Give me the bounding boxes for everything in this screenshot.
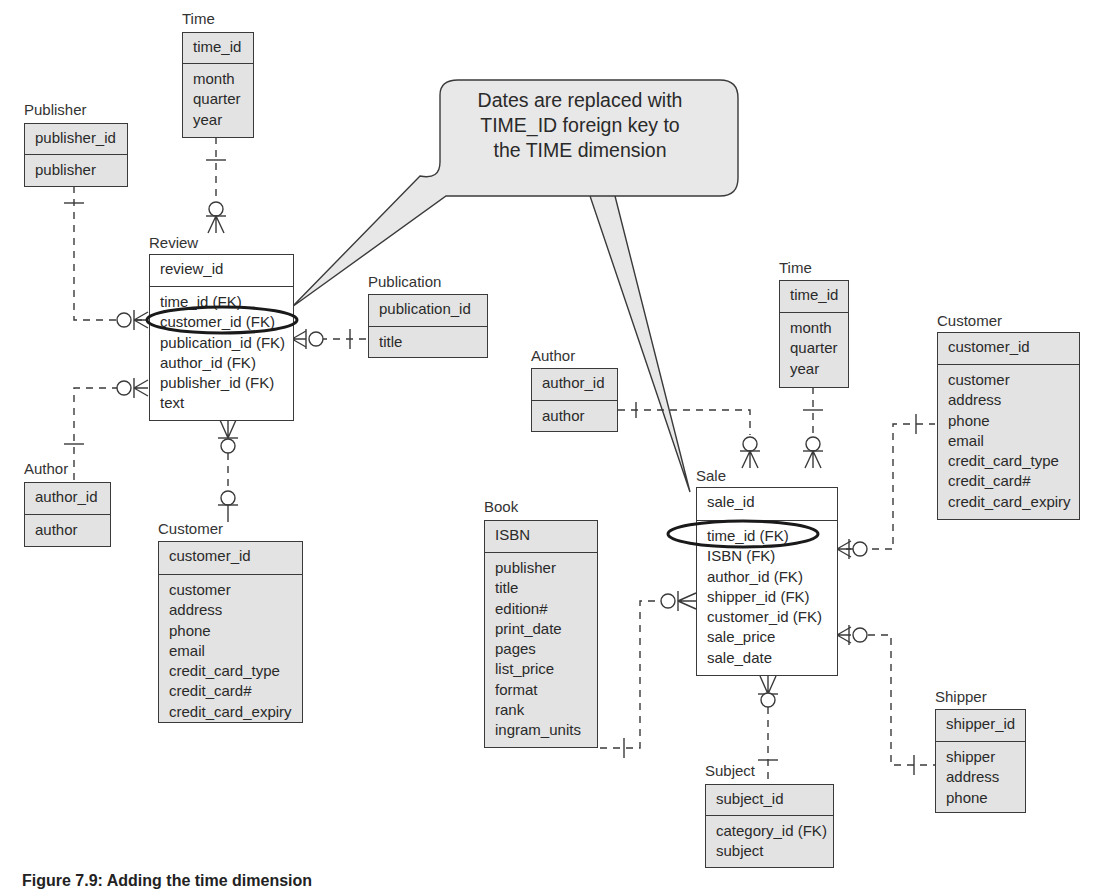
attribute-list: category_id (FK) subject: [706, 816, 833, 862]
attribute: author: [542, 406, 617, 426]
primary-key: publisher_id: [25, 124, 127, 155]
attribute: customer: [948, 370, 1079, 390]
attribute: year: [790, 359, 848, 379]
attribute-list: publisher: [25, 155, 127, 180]
attribute: publication_id (FK): [160, 333, 293, 353]
attribute: sale_date: [707, 648, 837, 668]
attribute: credit_card#: [169, 681, 302, 701]
attribute: customer: [169, 580, 302, 600]
attribute: publisher: [495, 558, 597, 578]
attribute: customer_id (FK): [160, 312, 293, 332]
attribute: format: [495, 680, 597, 700]
attribute: title: [379, 332, 487, 352]
attribute: phone: [946, 788, 1025, 808]
attribute: credit_card_type: [948, 451, 1079, 471]
entity-name: Publisher: [24, 101, 87, 118]
entity-name: Time: [779, 259, 812, 276]
attribute: author: [35, 520, 110, 540]
entity-name: Shipper: [935, 688, 987, 705]
primary-key: subject_id: [706, 785, 833, 816]
attribute: month: [790, 318, 848, 338]
figure-caption: Figure 7.9: Adding the time dimension: [22, 872, 312, 890]
attribute: sale_price: [707, 627, 837, 647]
entity-name: Customer: [937, 312, 1002, 329]
attribute: rank: [495, 700, 597, 720]
attribute-list: time_id (FK) ISBN (FK) author_id (FK) sh…: [697, 521, 837, 668]
callout-note: Dates are replaced with TIME_ID foreign …: [420, 88, 740, 163]
attribute-list: month quarter year: [780, 313, 848, 379]
attribute: credit_card_type: [169, 661, 302, 681]
attribute: month: [193, 69, 253, 89]
primary-key: time_id: [780, 281, 848, 313]
attribute: address: [948, 390, 1079, 410]
attribute: email: [948, 431, 1079, 451]
attribute-list: title: [369, 327, 487, 352]
attribute: title: [495, 578, 597, 598]
attribute: address: [946, 767, 1025, 787]
attribute: publisher: [35, 160, 127, 180]
attribute: author_id (FK): [160, 353, 293, 373]
attribute: phone: [169, 621, 302, 641]
primary-key: review_id: [150, 255, 293, 287]
attribute: address: [169, 600, 302, 620]
entity-name: Author: [531, 347, 575, 364]
attribute: phone: [948, 411, 1079, 431]
primary-key: time_id: [183, 33, 253, 64]
entity-name: Time: [182, 10, 215, 27]
callout-line: the TIME dimension: [420, 138, 740, 163]
attribute: ISBN (FK): [707, 546, 837, 566]
attribute: category_id (FK): [716, 821, 833, 841]
primary-key: author_id: [25, 483, 110, 515]
attribute: author_id (FK): [707, 567, 837, 587]
attribute: time_id (FK): [160, 292, 293, 312]
entity-name: Author: [24, 460, 68, 477]
attribute-list: time_id (FK) customer_id (FK) publicatio…: [150, 287, 293, 414]
attribute: shipper_id (FK): [707, 587, 837, 607]
attribute: publisher_id (FK): [160, 373, 293, 393]
attribute: list_price: [495, 659, 597, 679]
attribute: quarter: [193, 89, 253, 109]
entity-name: Review: [149, 234, 198, 251]
attribute: edition#: [495, 599, 597, 619]
primary-key: customer_id: [938, 333, 1079, 365]
attribute: email: [169, 641, 302, 661]
attribute: year: [193, 110, 253, 130]
primary-key: ISBN: [485, 521, 597, 553]
callout-line: Dates are replaced with: [420, 88, 740, 113]
entity-name: Subject: [705, 762, 755, 779]
primary-key: sale_id: [697, 488, 837, 521]
attribute-list: shipper address phone: [936, 742, 1025, 808]
entity-name: Sale: [696, 467, 726, 484]
attribute: text: [160, 393, 293, 413]
entity-name: Publication: [368, 273, 441, 290]
attribute-list: publisher title edition# print_date page…: [485, 553, 597, 741]
entity-name: Book: [484, 498, 518, 515]
attribute: credit_card_expiry: [948, 492, 1079, 512]
attribute: quarter: [790, 338, 848, 358]
attribute-list: customer address phone email credit_card…: [938, 365, 1079, 512]
entity-name: Customer: [158, 520, 223, 537]
attribute: shipper: [946, 747, 1025, 767]
attribute: credit_card_expiry: [169, 702, 302, 722]
attribute: customer_id (FK): [707, 607, 837, 627]
primary-key: customer_id: [159, 542, 302, 575]
attribute: ingram_units: [495, 720, 597, 740]
primary-key: shipper_id: [936, 710, 1025, 742]
attribute: subject: [716, 841, 833, 861]
attribute: print_date: [495, 619, 597, 639]
primary-key: publication_id: [369, 295, 487, 327]
attribute-list: month quarter year: [183, 64, 253, 130]
attribute: time_id (FK): [707, 526, 837, 546]
attribute-list: author: [25, 515, 110, 540]
primary-key: author_id: [532, 369, 617, 401]
attribute: credit_card#: [948, 471, 1079, 491]
attribute-list: author: [532, 401, 617, 426]
attribute: pages: [495, 639, 597, 659]
callout-line: TIME_ID foreign key to: [420, 113, 740, 138]
attribute-list: customer address phone email credit_card…: [159, 575, 302, 722]
